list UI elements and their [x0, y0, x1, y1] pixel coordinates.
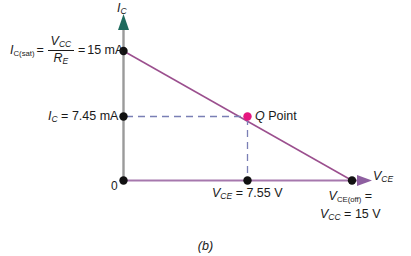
ic-sat-symbol: IC(sat): [10, 44, 35, 57]
q-point-symbol: Q: [255, 109, 265, 123]
vce-off-marker: [348, 176, 356, 184]
vce-q-value: = 7.55 V: [236, 186, 283, 200]
dc-load-line-figure: IC VCE 0 IC(sat) = VCC RE = 15 mA IC = 7…: [0, 0, 411, 256]
ic-sat-equals-2: =: [78, 44, 85, 57]
dc-load-line: [124, 51, 353, 181]
vce-q-label: VCE = 7.55 V: [212, 187, 283, 200]
vce-off-line-2: VCC = 15 V: [320, 205, 381, 223]
vce-q-marker: [243, 176, 251, 184]
x-axis-label-subscript: CE: [381, 174, 393, 184]
ic-sat-numerator: VCC: [49, 35, 74, 50]
origin-label: 0: [111, 180, 118, 192]
ic-sat-fraction: VCC RE: [48, 35, 74, 66]
x-axis-arrowhead: [357, 175, 372, 186]
y-axis-arrowhead: [118, 14, 129, 30]
ic-sat-label: IC(sat) = VCC RE = 15 mA: [10, 35, 123, 66]
q-point-label: Q Point: [255, 110, 297, 123]
origin-marker: [119, 176, 127, 184]
x-axis-label: VCE: [373, 170, 393, 183]
ic-q-value: = 7.45 mA: [61, 109, 118, 123]
q-point-text: Point: [265, 109, 297, 123]
q-point-marker: [243, 112, 251, 120]
ic-sat-denominator: RE: [52, 51, 71, 66]
vce-off-label: VCE(off) = VCC = 15 V: [320, 187, 381, 223]
vce-q-subscript: CE: [220, 191, 232, 201]
figure-caption: (b): [0, 240, 411, 253]
ic-q-marker: [119, 112, 127, 120]
vce-off-line-1: VCE(off) =: [320, 187, 381, 205]
y-axis-label-subscript: C: [120, 6, 126, 16]
ic-q-label: IC = 7.45 mA: [48, 110, 118, 123]
ic-sat-equals: =: [37, 44, 44, 57]
y-axis-label: IC: [117, 2, 127, 15]
ic-q-subscript: C: [51, 114, 57, 124]
ic-sat-value: 15 mA: [87, 44, 123, 57]
